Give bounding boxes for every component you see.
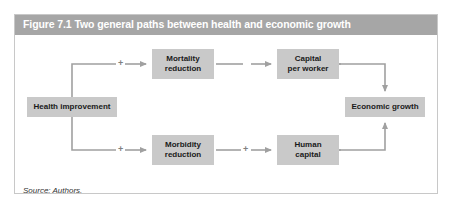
- node-capital-per-worker: Capitalper worker: [277, 49, 339, 79]
- node-human-capital: Humancapital: [277, 135, 339, 165]
- figure-frame: Figure 7.1 Two general paths between hea…: [14, 14, 438, 194]
- edge-sign-morbidity-to-human-capital: +: [243, 145, 248, 154]
- figure-title-bar: Figure 7.1 Two general paths between hea…: [15, 15, 437, 35]
- node-mortality-reduction-label: Mortalityreduction: [165, 54, 201, 74]
- node-human-capital-line-1: Human: [294, 140, 321, 149]
- node-capital-per-worker-line-1: Capital: [295, 54, 322, 63]
- source-note: Source: Authors.: [23, 186, 82, 195]
- node-morbidity-reduction: Morbidityreduction: [152, 135, 214, 165]
- node-capital-per-worker-line-2: per worker: [288, 64, 329, 73]
- edge-sign-health-to-mortality: +: [118, 59, 123, 68]
- diagram-canvas: + + + + + Health improvement Mortalityre…: [15, 35, 437, 193]
- node-economic-growth: Economic growth: [345, 97, 425, 117]
- edge-sign-health-to-morbidity: +: [118, 145, 123, 154]
- node-morbidity-reduction-line-1: Morbidity: [165, 140, 201, 149]
- node-health-improvement-label: Health improvement: [34, 102, 111, 112]
- node-mortality-reduction-line-1: Mortality: [166, 54, 199, 63]
- edge-health-to-morbidity: [72, 117, 146, 150]
- node-economic-growth-label: Economic growth: [351, 102, 418, 112]
- node-mortality-reduction-line-2: reduction: [165, 64, 201, 73]
- node-morbidity-reduction-line-2: reduction: [165, 150, 201, 159]
- figure-title: Figure 7.1 Two general paths between hea…: [23, 18, 351, 30]
- edge-health-to-mortality: [72, 64, 146, 97]
- node-mortality-reduction: Mortalityreduction: [152, 49, 214, 79]
- node-human-capital-label: Humancapital: [294, 140, 321, 160]
- node-health-improvement: Health improvement: [27, 97, 117, 117]
- node-human-capital-line-2: capital: [295, 150, 320, 159]
- node-morbidity-reduction-label: Morbidityreduction: [165, 140, 201, 160]
- node-capital-per-worker-label: Capitalper worker: [288, 54, 329, 74]
